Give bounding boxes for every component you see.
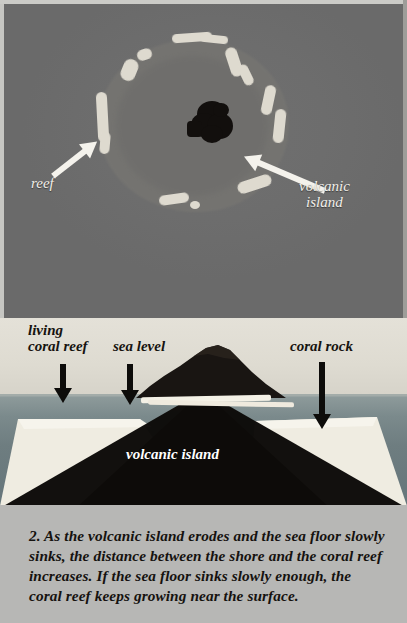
label-volcanic-island-aerial: volcanic island xyxy=(299,179,350,211)
label-coral-rock: coral rock xyxy=(290,339,353,355)
arrow-to-sea-level xyxy=(121,364,139,404)
figure-page: reef volcanic island xyxy=(0,0,407,623)
page-edge-top xyxy=(0,0,407,4)
aerial-photo-atoll: reef volcanic island xyxy=(4,4,405,318)
volcanic-island-aerial xyxy=(187,99,235,144)
label-reef: reef xyxy=(31,176,54,192)
label-sea-level: sea level xyxy=(113,339,165,355)
label-living-coral-reef: living coral reef xyxy=(28,323,88,355)
label-volcanic-island-cross-section: volcanic island xyxy=(126,447,219,463)
caption-panel: 2. As the volcanic island erodes and the… xyxy=(0,505,407,623)
cross-section-diagram: living coral reef sea level coral rock v… xyxy=(0,318,407,508)
arrow-to-coral-rock xyxy=(313,362,331,430)
arrow-to-living-coral-reef xyxy=(54,364,72,402)
reef-segment xyxy=(190,201,200,209)
page-edge-left xyxy=(0,0,4,318)
caption-text: 2. As the volcanic island erodes and the… xyxy=(29,526,387,606)
page-edge-right xyxy=(403,0,407,318)
